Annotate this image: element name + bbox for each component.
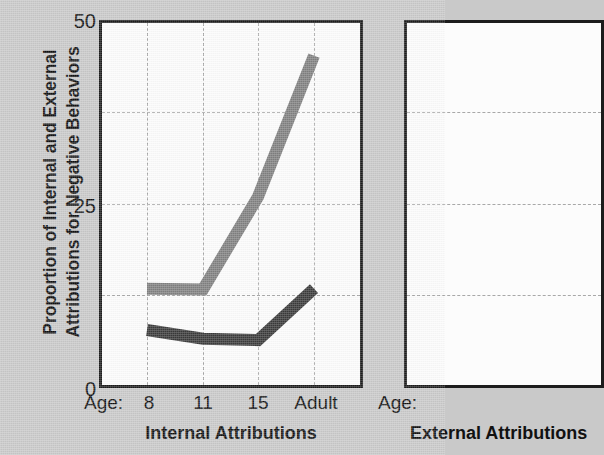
panel-external-attributions: Age: External Attributions — [372, 0, 445, 455]
series-dark-gray-line — [147, 289, 314, 340]
x-tick-internal-8: 8 — [131, 392, 167, 414]
gridline-h-external-37-5 — [407, 112, 601, 113]
gridline-h-external-12-5 — [407, 295, 601, 296]
gridline-h-external-25 — [407, 204, 601, 205]
x-axis-prefix-internal: Age: — [84, 392, 132, 414]
y-tick-25: 25 — [50, 196, 96, 216]
y-tick-50: 50 — [50, 11, 96, 31]
plot-area-internal — [99, 20, 363, 388]
x-axis-prefix-external: Age: — [378, 392, 417, 414]
panel-title-internal: Internal Attributions — [99, 423, 363, 444]
x-tick-internal-15: 15 — [240, 392, 276, 414]
panel-title-external: External Attributions — [410, 423, 587, 444]
plot-area-external — [404, 20, 604, 388]
y-axis-tick-labels: 50 25 0 — [48, 0, 96, 455]
x-tick-internal-11: 11 — [185, 392, 221, 414]
series-light-gray-line — [147, 56, 314, 290]
x-axis-tick-labels-internal: Age: 8 11 15 Adult — [84, 392, 374, 418]
panel-internal-attributions: Proportion of Internal and External Attr… — [0, 0, 372, 455]
x-tick-internal-adult: Adult — [281, 392, 351, 414]
series-lines-internal — [102, 23, 360, 385]
